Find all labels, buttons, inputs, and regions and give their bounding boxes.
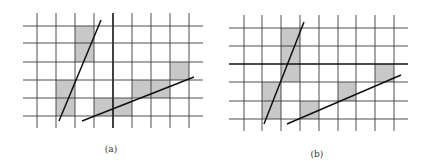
shaded-cell [300,101,319,119]
panel-a [23,13,203,128]
panel-a-caption: (a) [105,144,117,154]
panel-b-caption: (b) [311,149,324,159]
shaded-cell [170,62,189,80]
panel-b [229,15,408,131]
grid-rasterization-diagram [0,0,425,164]
